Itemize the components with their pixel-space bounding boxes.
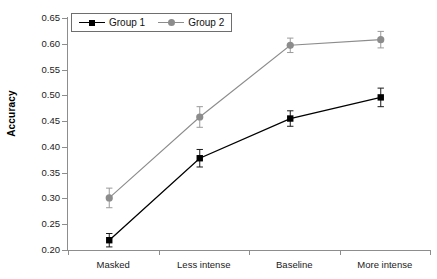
legend-label: Group 1 (109, 18, 145, 28)
y-tick-label: 0.45 (30, 116, 60, 125)
y-axis-line (67, 17, 68, 251)
x-tick-mark (159, 250, 160, 255)
y-tick-mark (62, 147, 67, 148)
y-tick-label: 0.35 (30, 168, 60, 177)
x-tick-label-less-intense: Less intense (159, 259, 250, 270)
y-axis-title: Accuracy (6, 79, 17, 149)
y-tick-label: 0.30 (30, 193, 60, 202)
y-tick-mark (62, 121, 67, 122)
y-tick-label: 0.50 (30, 90, 60, 99)
x-tick-label-more-intense: More intense (340, 259, 431, 270)
y-tick-mark (62, 44, 67, 45)
y-tick-mark (62, 18, 67, 19)
figure-caption (0, 271, 437, 279)
legend-label: Group 2 (188, 18, 224, 28)
y-tick-label: 0.25 (30, 219, 60, 228)
y-tick-label: 0.40 (30, 142, 60, 151)
y-tick-mark (62, 250, 67, 251)
legend-item-group-2[interactable]: Group 2 (158, 18, 224, 28)
x-tick-mark (68, 250, 69, 255)
x-tick-label-masked: Masked (68, 259, 159, 270)
figure-container: Accuracy 0.200.250.300.350.400.450.500.5… (0, 0, 437, 279)
y-tick-mark (62, 95, 67, 96)
y-tick-label: 0.65 (30, 13, 60, 22)
x-tick-mark (340, 250, 341, 255)
y-tick-mark (62, 198, 67, 199)
y-tick-mark (62, 173, 67, 174)
series-group-1 (106, 88, 384, 247)
series-group-2 (106, 31, 385, 207)
legend-item-group-1[interactable]: Group 1 (79, 18, 145, 28)
x-tick-mark (430, 250, 431, 255)
y-tick-label: 0.55 (30, 65, 60, 74)
legend-circle-marker-icon (158, 18, 184, 28)
y-tick-mark (62, 224, 67, 225)
x-tick-mark (249, 250, 250, 255)
y-tick-label: 0.60 (30, 39, 60, 48)
legend-square-marker-icon (79, 18, 105, 28)
y-tick-label: 0.20 (30, 245, 60, 254)
y-tick-mark (62, 70, 67, 71)
plot-canvas (0, 0, 437, 279)
chart-legend: Group 1Group 2 (71, 13, 232, 32)
x-tick-label-baseline: Baseline (249, 259, 340, 270)
